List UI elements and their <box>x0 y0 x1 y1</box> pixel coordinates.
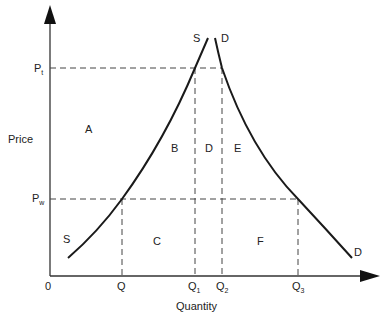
supply-label-top: S <box>193 32 200 44</box>
demand-label-top: D <box>221 32 229 44</box>
demand-label-bottom: D <box>354 246 362 258</box>
area-a-label: A <box>85 123 93 135</box>
supply-curve <box>68 38 208 258</box>
pw-label: Pw <box>32 192 45 206</box>
q1-label: Q1 <box>188 280 201 294</box>
y-axis-arrow-icon <box>44 5 56 24</box>
area-c-label: C <box>153 235 161 247</box>
q2-label: Q2 <box>216 280 229 294</box>
x-axis-label: Quantity <box>176 300 217 312</box>
area-f-label: F <box>257 235 264 247</box>
pt-label: Pt <box>34 62 43 76</box>
area-e-label: E <box>234 142 241 154</box>
y-axis-label: Price <box>8 133 33 145</box>
area-b-label: B <box>171 142 178 154</box>
q-label: Q <box>117 280 126 292</box>
supply-label-bottom: S <box>63 233 70 245</box>
area-d-label: D <box>205 142 213 154</box>
x-axis-arrow-icon <box>360 270 380 282</box>
supply-demand-diagram: S D S D Price Quantity 0 Pt Pw Q Q1 Q2 Q… <box>0 0 383 316</box>
origin-label: 0 <box>45 280 51 292</box>
q3-label: Q3 <box>292 280 305 294</box>
